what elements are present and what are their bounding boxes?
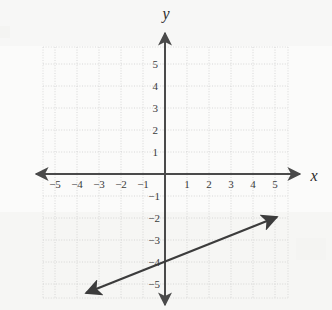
y-tick-label-4: 4	[153, 80, 159, 92]
coordinate-plane: −5 −4 −3 −2 −1 1 2 3 4 5 5 4 3 2 1 −1 −2…	[0, 0, 332, 310]
x-axis-label: x	[309, 167, 317, 184]
y-tick-label--1: −1	[148, 190, 160, 202]
x-tick-label--2: −2	[115, 178, 127, 190]
x-tick-label-1: 1	[184, 178, 190, 190]
y-tick-label--4: −4	[148, 256, 160, 268]
x-tick-label--5: −5	[49, 178, 61, 190]
y-tick-label-2: 2	[153, 124, 159, 136]
x-tick-label--4: −4	[71, 178, 83, 190]
y-tick-label--2: −2	[148, 212, 160, 224]
plotted-line	[86, 217, 277, 293]
x-tick-label-3: 3	[228, 178, 234, 190]
y-axis-label: y	[160, 5, 170, 23]
x-tick-label-2: 2	[206, 178, 212, 190]
y-tick-label-5: 5	[153, 58, 159, 70]
x-tick-label--1: −1	[137, 178, 149, 190]
x-tick-label--3: −3	[93, 178, 105, 190]
y-tick-label--5: −5	[148, 278, 160, 290]
y-tick-label-1: 1	[153, 146, 159, 158]
y-tick-label-3: 3	[153, 102, 159, 114]
y-tick-label--3: −3	[148, 234, 160, 246]
x-tick-label-4: 4	[250, 178, 256, 190]
x-tick-label-5: 5	[272, 178, 278, 190]
graph-figure: −5 −4 −3 −2 −1 1 2 3 4 5 5 4 3 2 1 −1 −2…	[0, 0, 332, 310]
